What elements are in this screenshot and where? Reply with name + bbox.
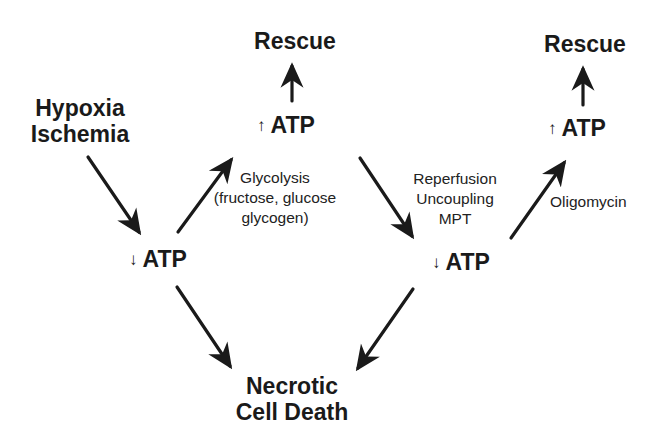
- arrow-hypoxia-to-atp-down-1: [88, 157, 139, 232]
- rescue-label-1: Rescue: [254, 28, 336, 54]
- atp-label: ATP: [562, 115, 606, 141]
- cell-death-label: Cell Death: [236, 400, 348, 426]
- atp-label: ATP: [271, 112, 315, 138]
- necrotic-label: Necrotic: [236, 374, 348, 400]
- down-arrow-icon: ↓: [129, 250, 138, 269]
- up-arrow-icon: ↑: [257, 116, 266, 135]
- arrow-atp-down-1-to-necrosis: [177, 287, 230, 366]
- rescue-node-2: Rescue: [544, 32, 626, 58]
- rescue-label-2: Rescue: [544, 31, 626, 57]
- rescue-node-1: Rescue: [254, 29, 336, 55]
- arrow-atp-down-2-to-necrosis: [358, 289, 413, 368]
- hypoxia-ischemia-node: Hypoxia Ischemia: [31, 96, 129, 148]
- up-arrow-icon: ↑: [548, 119, 557, 138]
- arrow-atp-up-1-to-atp-down-2: [360, 158, 412, 236]
- glycolysis-line-1: Glycolysis: [214, 168, 336, 188]
- necrotic-cell-death-node: Necrotic Cell Death: [236, 374, 348, 426]
- atp-label: ATP: [446, 249, 490, 275]
- glycolysis-label: Glycolysis (fructose, glucose glycogen): [214, 168, 336, 228]
- atp-increase-node-2: ↑ATP: [548, 116, 606, 142]
- reperfusion-line-1: Reperfusion: [413, 169, 497, 189]
- oligomycin-text: Oligomycin: [550, 193, 627, 210]
- glycolysis-line-2: (fructose, glucose: [214, 188, 336, 208]
- hypoxia-label: Hypoxia: [31, 96, 129, 122]
- oligomycin-label: Oligomycin: [550, 192, 627, 212]
- reperfusion-line-3: MPT: [413, 209, 497, 229]
- reperfusion-label: Reperfusion Uncoupling MPT: [413, 169, 497, 229]
- atp-label: ATP: [143, 246, 187, 272]
- ischemia-label: Ischemia: [31, 122, 129, 148]
- reperfusion-line-2: Uncoupling: [413, 189, 497, 209]
- down-arrow-icon: ↓: [432, 253, 441, 272]
- atp-decrease-node-1: ↓ATP: [129, 247, 187, 273]
- glycolysis-line-3: glycogen): [214, 208, 336, 228]
- atp-increase-node-1: ↑ATP: [257, 113, 315, 139]
- atp-decrease-node-2: ↓ATP: [432, 250, 490, 276]
